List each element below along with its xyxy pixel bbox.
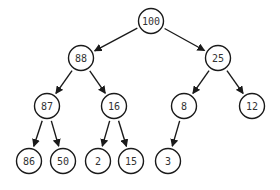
node-label: 86: [23, 156, 35, 167]
node-label: 100: [142, 16, 160, 27]
edge-arrow-n25-n8: [193, 71, 209, 94]
edge-arrow-n100-n25: [165, 28, 205, 50]
node-label: 50: [57, 156, 69, 167]
edge-arrow-n88-n87: [56, 71, 72, 94]
tree-node-25: 25: [206, 46, 231, 71]
edge-arrow-n8-n3: [172, 121, 179, 146]
edge-arrow-n25-n12: [227, 71, 243, 94]
edge-arrow-n16-n2: [102, 121, 109, 146]
node-label: 88: [75, 53, 87, 64]
tree-node-87: 87: [35, 94, 60, 119]
edge-arrow-n88-n16: [90, 71, 105, 93]
tree-node-50: 50: [51, 149, 76, 174]
node-label: 15: [125, 156, 137, 167]
edge-layer: [34, 28, 243, 146]
tree-node-88: 88: [69, 46, 94, 71]
node-label: 2: [95, 156, 101, 167]
node-layer: 1008825871681286502153: [17, 9, 265, 174]
node-label: 16: [108, 101, 120, 112]
tree-node-2: 2: [86, 149, 111, 174]
edge-arrow-n16-n15: [119, 121, 127, 146]
node-label: 3: [165, 156, 171, 167]
node-label: 12: [246, 101, 258, 112]
tree-node-100: 100: [139, 9, 164, 34]
tree-node-86: 86: [17, 149, 42, 174]
node-label: 87: [41, 101, 53, 112]
tree-node-15: 15: [119, 149, 144, 174]
edge-arrow-n87-n86: [34, 121, 42, 147]
tree-diagram: 1008825871681286502153: [0, 0, 280, 190]
tree-node-8: 8: [172, 94, 197, 119]
tree-node-16: 16: [102, 94, 127, 119]
edge-arrow-n87-n50: [51, 121, 58, 146]
edge-arrow-n100-n88: [95, 28, 138, 51]
tree-node-12: 12: [240, 94, 265, 119]
node-label: 8: [181, 101, 187, 112]
tree-node-3: 3: [156, 149, 181, 174]
node-label: 25: [212, 53, 224, 64]
